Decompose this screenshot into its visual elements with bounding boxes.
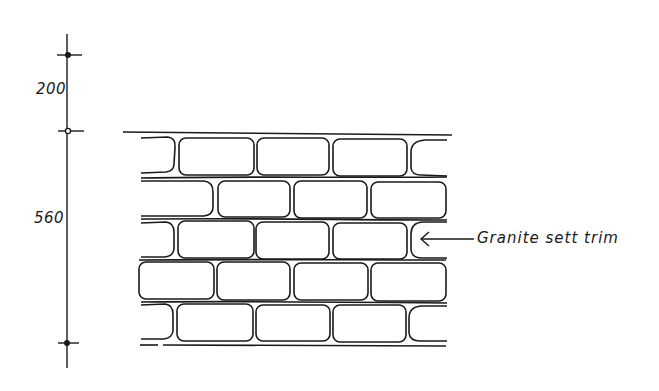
sett-row-4	[139, 262, 446, 301]
sett	[257, 138, 329, 175]
sett-partial-left	[141, 222, 174, 257]
sett	[333, 305, 406, 342]
sett	[139, 262, 214, 299]
dimension-label-200: 200	[36, 82, 66, 97]
sett	[217, 262, 290, 300]
granite-sett-wall-drawing	[0, 0, 659, 391]
sett	[256, 222, 329, 259]
course-joint-1	[141, 177, 447, 178]
sett	[294, 263, 368, 300]
sett-row-5	[141, 304, 447, 342]
callout-label: Granite sett trim	[477, 231, 619, 246]
sett-row-1	[141, 137, 447, 176]
sett	[177, 304, 253, 341]
bottom-edge-line-b	[163, 345, 446, 346]
sett	[218, 181, 290, 217]
sett-partial-left	[141, 137, 175, 173]
sett-row-3	[141, 221, 447, 259]
course-joint-2	[141, 219, 447, 220]
sett-partial-right-callout	[411, 222, 447, 258]
sett	[333, 223, 407, 259]
sett-partial-right	[411, 140, 447, 176]
sett	[333, 139, 407, 176]
sett-row-2	[141, 181, 446, 218]
sett	[371, 263, 446, 301]
sett	[178, 221, 254, 258]
dimension-label-560: 560	[34, 211, 64, 226]
sett	[371, 182, 446, 218]
dimension-node-top-icon	[65, 52, 71, 58]
dimension-node-bottom-icon	[64, 340, 70, 346]
dimension-node-middle-icon	[65, 128, 70, 133]
sett-partial-left	[141, 304, 173, 339]
sett-partial-right	[409, 306, 447, 341]
sett	[294, 181, 367, 218]
top-edge-line	[123, 132, 452, 135]
sett	[256, 305, 330, 341]
sett-partial-left	[141, 181, 213, 216]
sett	[179, 138, 254, 175]
